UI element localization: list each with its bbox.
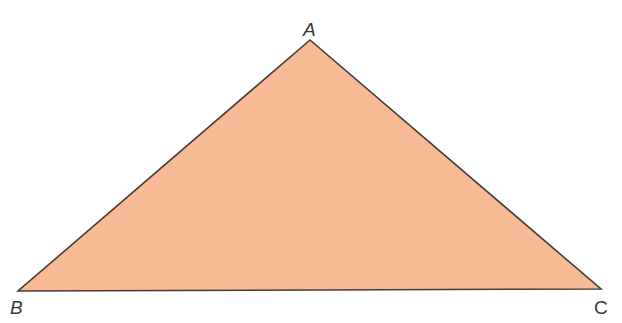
vertex-label-b: B bbox=[10, 298, 23, 317]
triangle-abc bbox=[18, 40, 601, 291]
triangle-diagram bbox=[0, 0, 622, 323]
vertex-label-c: C bbox=[594, 298, 608, 317]
vertex-label-a: A bbox=[303, 20, 316, 39]
